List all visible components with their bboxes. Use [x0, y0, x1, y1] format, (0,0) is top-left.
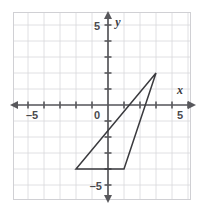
x-axis-tick-label-pos5: 5	[177, 109, 183, 121]
y-axis-name-label: y	[113, 15, 121, 29]
y-axis-tick-label-neg5: –5	[90, 180, 102, 192]
origin-label: 0	[94, 109, 100, 121]
x-axis-name-label: x	[176, 83, 183, 97]
x-axis-tick-label-neg5: –5	[26, 109, 38, 121]
coordinate-plane-figure: –5 5 5 –5 0 x y	[0, 0, 206, 210]
coordinate-plane-graph: –5 5 5 –5 0 x y	[0, 0, 206, 210]
y-axis-tick-label-pos5: 5	[94, 20, 100, 32]
